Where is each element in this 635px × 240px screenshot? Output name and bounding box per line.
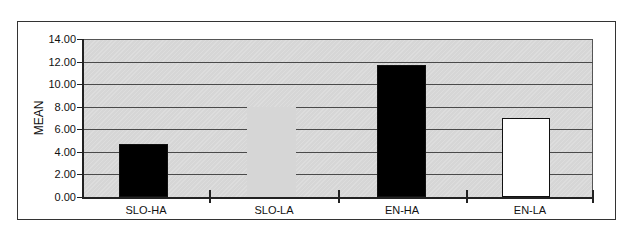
y-tick — [77, 197, 82, 198]
bar-slo-la — [247, 107, 296, 197]
y-tick-label: 2.00 — [40, 168, 76, 180]
x-tick — [466, 190, 468, 203]
y-tick-label: 10.00 — [40, 78, 76, 90]
x-tick — [592, 190, 594, 203]
bar-en-la — [502, 118, 550, 197]
y-tick-label: 4.00 — [40, 146, 76, 158]
gridline-12 — [82, 62, 593, 63]
y-tick-label: 0.00 — [40, 191, 76, 203]
gridline-10 — [82, 84, 593, 85]
bar-en-ha — [377, 65, 426, 197]
y-tick — [77, 174, 82, 175]
y-tick — [77, 107, 82, 108]
bar-slo-ha — [119, 144, 168, 197]
y-tick — [77, 39, 82, 40]
y-axis-title: MEAN — [32, 101, 46, 136]
x-tick — [209, 190, 211, 203]
y-tick — [77, 84, 82, 85]
y-tick — [77, 152, 82, 153]
y-tick — [77, 62, 82, 63]
y-tick-label: 12.00 — [40, 56, 76, 68]
gridline-8 — [82, 107, 593, 108]
x-label-en-la: EN-LA — [466, 204, 594, 216]
y-axis — [82, 39, 84, 199]
x-label-slo-la: SLO-LA — [210, 204, 338, 216]
x-label-en-ha: EN-HA — [338, 204, 466, 216]
x-tick — [338, 190, 340, 203]
y-tick-label: 14.00 — [40, 33, 76, 45]
y-tick — [77, 129, 82, 130]
x-label-slo-ha: SLO-HA — [82, 204, 210, 216]
